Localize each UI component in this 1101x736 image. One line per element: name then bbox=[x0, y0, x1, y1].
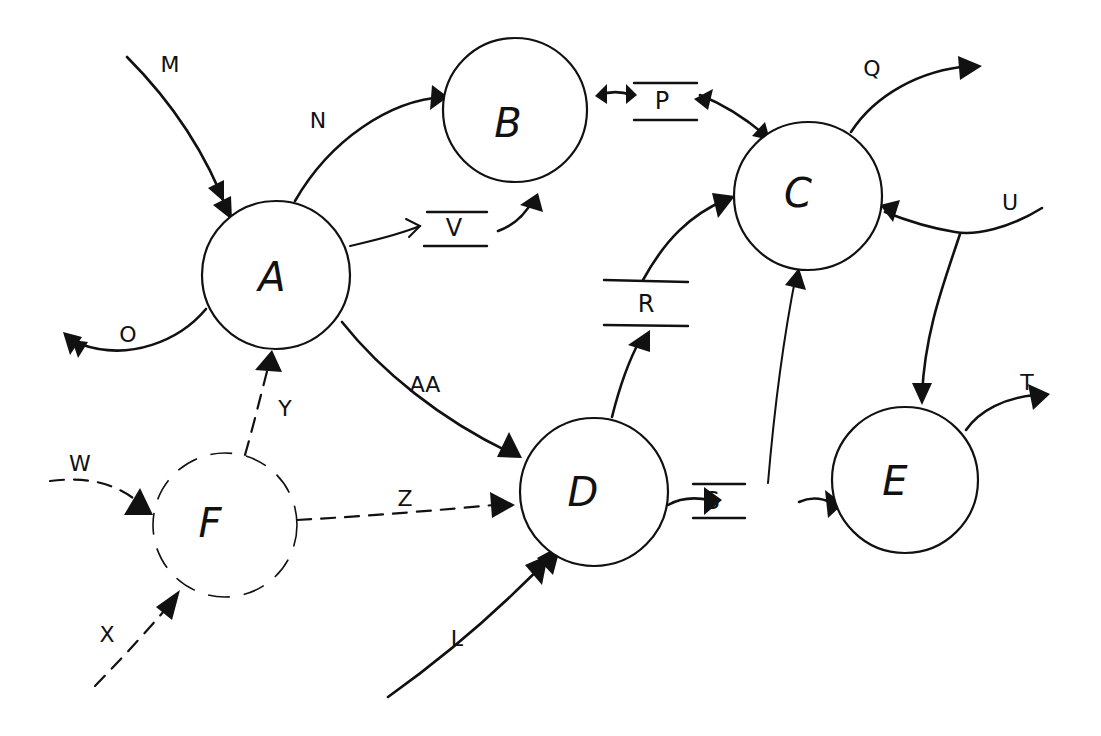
process-B[interactable]: B bbox=[443, 38, 587, 182]
flow-U: U bbox=[880, 190, 1042, 405]
arrowhead-icon bbox=[255, 350, 282, 372]
arrowhead-icon bbox=[694, 89, 713, 110]
flow-AA: AA bbox=[342, 322, 522, 458]
process-label-C: C bbox=[784, 170, 812, 216]
flow-label-Y: Y bbox=[277, 396, 292, 421]
store-P[interactable]: P bbox=[634, 83, 697, 120]
process-D[interactable]: D bbox=[520, 418, 668, 566]
flow-N: N bbox=[295, 85, 448, 201]
flow-label-U: U bbox=[1002, 190, 1018, 215]
flow-S-to-C bbox=[768, 268, 806, 483]
flow-Y: Y bbox=[245, 350, 292, 455]
store-label-S: S bbox=[704, 487, 719, 515]
flow-D-to-R bbox=[612, 330, 650, 417]
flow-V-to-B bbox=[498, 193, 543, 231]
flow-X: X bbox=[95, 590, 180, 686]
store-S[interactable]: S bbox=[693, 484, 745, 518]
data-flow-diagram: M N O Q bbox=[0, 0, 1101, 736]
flow-O: O bbox=[63, 309, 206, 358]
arrowhead-icon bbox=[628, 330, 650, 352]
flow-label-O: O bbox=[119, 322, 136, 347]
flow-W: W bbox=[50, 451, 153, 515]
process-label-F: F bbox=[198, 500, 222, 546]
flow-B-P bbox=[595, 84, 637, 104]
flow-label-Q: Q bbox=[863, 56, 880, 81]
arrowhead-icon bbox=[785, 268, 806, 290]
store-label-V: V bbox=[446, 214, 463, 242]
flow-M: M bbox=[127, 52, 232, 220]
arrowhead-icon bbox=[497, 432, 522, 458]
flow-label-L: L bbox=[451, 626, 464, 651]
arrowhead-icon bbox=[712, 193, 735, 218]
flow-P-C bbox=[694, 89, 770, 140]
arrowhead-icon bbox=[958, 56, 982, 80]
process-A[interactable]: A bbox=[202, 201, 350, 349]
arrowhead-icon bbox=[880, 200, 900, 222]
store-R[interactable]: R bbox=[604, 280, 688, 326]
arrowhead-icon bbox=[626, 84, 637, 104]
store-label-R: R bbox=[638, 290, 655, 318]
flow-label-AA: AA bbox=[410, 372, 441, 397]
store-label-P: P bbox=[655, 87, 669, 115]
flow-R-to-C bbox=[643, 193, 735, 280]
process-F[interactable]: F bbox=[153, 453, 297, 597]
flow-A-to-V bbox=[350, 219, 420, 246]
flow-Q: Q bbox=[851, 56, 982, 132]
arrowhead-icon bbox=[912, 383, 932, 405]
flow-label-M: M bbox=[161, 52, 180, 77]
flow-L: L bbox=[388, 545, 561, 697]
process-label-E: E bbox=[882, 458, 908, 504]
arrowhead-icon bbox=[124, 488, 153, 515]
process-label-A: A bbox=[255, 254, 285, 300]
arrowhead-icon bbox=[72, 340, 88, 358]
flow-Z: Z bbox=[297, 486, 515, 520]
process-label-B: B bbox=[494, 100, 521, 146]
process-label-D: D bbox=[568, 469, 599, 515]
flow-label-X: X bbox=[99, 622, 114, 647]
store-V[interactable]: V bbox=[424, 212, 487, 246]
process-C[interactable]: C bbox=[734, 122, 882, 270]
flow-T: T bbox=[966, 370, 1050, 430]
arrowhead-icon bbox=[595, 84, 607, 104]
flow-label-Z: Z bbox=[397, 486, 412, 511]
process-E[interactable]: E bbox=[832, 407, 978, 553]
flow-label-W: W bbox=[69, 451, 91, 476]
flow-label-N: N bbox=[310, 108, 326, 133]
arrowhead-icon bbox=[490, 492, 515, 518]
arrowhead-icon bbox=[520, 193, 543, 212]
flow-label-T: T bbox=[1019, 370, 1034, 395]
